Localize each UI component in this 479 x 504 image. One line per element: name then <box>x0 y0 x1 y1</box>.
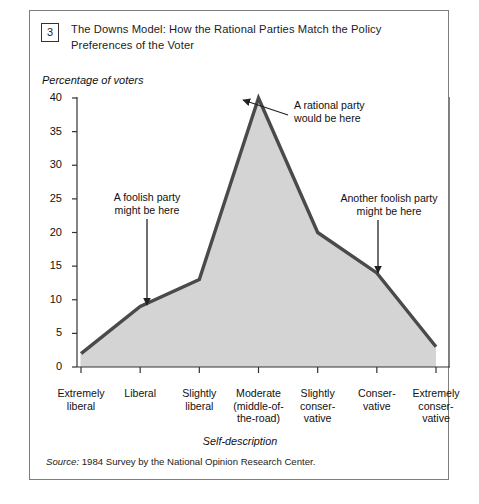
y-axis-title: Percentage of voters <box>42 74 144 86</box>
annotation-line: Another foolish party <box>324 192 454 205</box>
y-tick-label: 30 <box>42 158 62 170</box>
x-tick-line: Slightly <box>166 387 232 400</box>
x-axis-title: Self-description <box>30 435 450 447</box>
x-tick-label: Moderate(middle-of-the-road) <box>226 387 292 425</box>
figure-number-box: 3 <box>41 23 59 42</box>
figure-header: 3 The Downs Model: How the Rational Part… <box>41 22 436 53</box>
annotation-foolish-right: Another foolish partymight be here <box>324 192 454 217</box>
x-tick-label: Slightlyliberal <box>166 387 232 412</box>
source-label: Source: <box>46 456 79 467</box>
y-tick-label: 40 <box>42 91 62 103</box>
x-tick-line: conser- <box>403 400 469 413</box>
data-line <box>81 98 436 354</box>
annotation-line: might be here <box>324 205 454 218</box>
annotation-rational-peak: A rational partywould be here <box>294 99 414 124</box>
x-tick-label: Extremelyliberal <box>48 387 114 412</box>
source-text: 1984 Survey by the National Opinion Rese… <box>79 456 315 467</box>
y-tick-label: 25 <box>42 192 62 204</box>
x-tick-line: liberal <box>48 400 114 413</box>
x-tick-line: Conser- <box>344 387 410 400</box>
annotation-line: A foolish party <box>92 191 202 204</box>
figure-title: The Downs Model: How the Rational Partie… <box>71 22 436 53</box>
x-tick-line: vative <box>285 412 351 425</box>
y-tick-label: 15 <box>42 259 62 271</box>
x-tick-label: Extremelyconser-vative <box>403 387 469 425</box>
y-tick-label: 35 <box>42 125 62 137</box>
x-tick-line: Extremely <box>403 387 469 400</box>
x-tick-line: (middle-of- <box>226 400 292 413</box>
annotation-foolish-left: A foolish partymight be here <box>92 191 202 216</box>
annotation-arrow-rational-peak <box>243 100 288 115</box>
annotation-line: would be here <box>294 112 414 125</box>
x-tick-line: Extremely <box>48 387 114 400</box>
x-tick-line: Liberal <box>107 387 173 400</box>
x-tick-line: Moderate <box>226 387 292 400</box>
x-tick-label: Slightlyconser-vative <box>285 387 351 425</box>
x-tick-line: liberal <box>166 400 232 413</box>
figure-panel: 3 The Downs Model: How the Rational Part… <box>29 10 449 480</box>
x-tick-label: Conser-vative <box>344 387 410 412</box>
x-tick-line: the-road) <box>226 412 292 425</box>
y-tick-label: 10 <box>42 293 62 305</box>
x-tick-label: Liberal <box>107 387 173 400</box>
x-tick-line: Slightly <box>285 387 351 400</box>
x-tick-line: vative <box>403 412 469 425</box>
area-fill <box>81 98 436 367</box>
x-tick-line: vative <box>344 400 410 413</box>
x-tick-line: conser- <box>285 400 351 413</box>
y-tick-label: 5 <box>42 326 62 338</box>
y-tick-label: 0 <box>42 360 62 372</box>
annotation-line: A rational party <box>294 99 414 112</box>
annotation-line: might be here <box>92 204 202 217</box>
figure-source: Source: 1984 Survey by the National Opin… <box>46 456 315 467</box>
y-tick-label: 20 <box>42 226 62 238</box>
